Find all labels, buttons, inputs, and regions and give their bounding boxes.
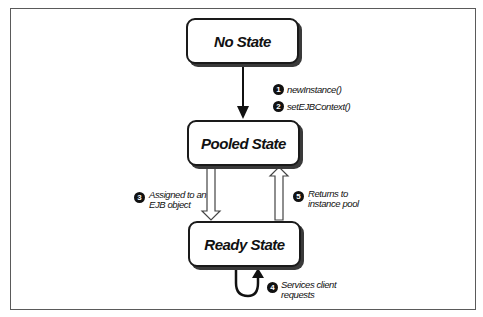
step-3-label: Assigned to an EJB object (149, 190, 206, 210)
state-pooled-state: Pooled State (187, 120, 300, 166)
step-4-badge: 4 (267, 282, 278, 293)
arrow-return (270, 167, 288, 220)
step-2-badge: 2 (273, 101, 284, 112)
state-label: Ready State (204, 236, 284, 253)
state-ready-state: Ready State (188, 221, 301, 267)
step-1-label: newInstance() (287, 85, 341, 95)
step-1-badge: 1 (273, 84, 284, 95)
step-4-label: Services client requests (281, 280, 336, 300)
state-label: Pooled State (201, 135, 286, 152)
arrow-service-loop (236, 268, 264, 296)
step-5-badge: 5 (293, 191, 304, 202)
step-5-label: Returns to instance pool (308, 189, 359, 209)
state-label: No State (214, 33, 271, 50)
step-2-label: setEJBContext() (287, 102, 350, 112)
arrow-create (237, 65, 249, 119)
state-no-state: No State (186, 18, 299, 64)
step-3-badge: 3 (134, 192, 145, 203)
